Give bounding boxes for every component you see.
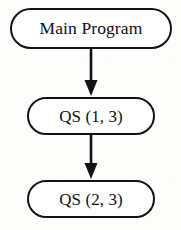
edge-main-to-qs13 xyxy=(85,49,98,96)
node-main-program[interactable]: Main Program xyxy=(10,8,172,49)
node-qs-2-3-label: QS (2, 3) xyxy=(59,190,123,207)
node-qs-1-3-label: QS (1, 3) xyxy=(59,107,123,124)
node-qs-1-3[interactable]: QS (1, 3) xyxy=(27,97,155,135)
diagram-canvas: Main Program QS (1, 3) QS (2, 3) xyxy=(0,0,181,230)
edge-qs13-to-qs23 xyxy=(85,135,98,179)
node-qs-2-3[interactable]: QS (2, 3) xyxy=(27,180,155,218)
node-main-program-label: Main Program xyxy=(40,19,143,37)
